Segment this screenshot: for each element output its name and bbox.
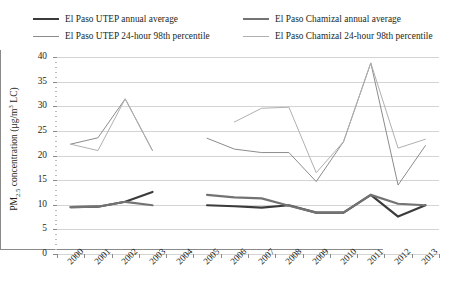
legend-label-chamizal-p98: El Paso Chamizal 24-hour 98th percentile bbox=[275, 31, 433, 41]
x-tick-mark bbox=[384, 254, 385, 258]
y-tick-label: 10 bbox=[19, 200, 47, 209]
legend-label-chamizal-annual: El Paso Chamizal annual average bbox=[275, 14, 401, 24]
chart-legend: El Paso UTEP annual average El Paso Cham… bbox=[0, 14, 456, 50]
y-axis-line bbox=[0, 50, 1, 249]
x-tick-mark bbox=[412, 254, 413, 258]
x-tick-mark bbox=[193, 254, 194, 258]
y-tick-label: 5 bbox=[19, 224, 47, 233]
y-tick-label: 15 bbox=[19, 175, 47, 184]
series-line bbox=[71, 202, 153, 207]
y-tick-label: 20 bbox=[19, 151, 47, 160]
legend-item-utep-annual: El Paso UTEP annual average bbox=[33, 14, 178, 24]
x-tick-mark bbox=[303, 254, 304, 258]
y-tick-label: 30 bbox=[19, 101, 47, 110]
x-tick-mark bbox=[221, 254, 222, 258]
legend-item-chamizal-annual: El Paso Chamizal annual average bbox=[243, 14, 401, 24]
y-tick-label: 35 bbox=[19, 77, 47, 86]
plot-area: PM2.5 concentration (μg/m3 LC) 051015202… bbox=[0, 50, 456, 303]
legend-label-utep-annual: El Paso UTEP annual average bbox=[65, 14, 178, 24]
legend-item-utep-p98: El Paso UTEP 24-hour 98th percentile bbox=[33, 31, 210, 41]
legend-swatch-chamizal-p98 bbox=[243, 36, 269, 37]
series-line bbox=[234, 63, 425, 173]
series-lines bbox=[57, 57, 439, 254]
legend-swatch-utep-p98 bbox=[33, 36, 59, 37]
legend-label-utep-p98: El Paso UTEP 24-hour 98th percentile bbox=[65, 31, 210, 41]
x-tick-mark bbox=[84, 254, 85, 258]
chart-root: El Paso UTEP annual average El Paso Cham… bbox=[0, 0, 456, 303]
series-line bbox=[207, 63, 425, 185]
legend-swatch-chamizal-annual bbox=[243, 18, 269, 20]
x-tick-mark bbox=[275, 254, 276, 258]
x-tick-mark bbox=[57, 254, 58, 258]
x-tick-mark bbox=[248, 254, 249, 258]
series-line bbox=[71, 99, 153, 151]
series-line bbox=[207, 195, 425, 213]
x-tick-mark bbox=[330, 254, 331, 258]
x-tick-mark bbox=[139, 254, 140, 258]
x-tick-mark bbox=[112, 254, 113, 258]
y-tick-label: 25 bbox=[19, 126, 47, 135]
y-tick-label: 0 bbox=[19, 249, 47, 258]
y-tick-label: 40 bbox=[19, 52, 47, 61]
legend-swatch-utep-annual bbox=[33, 18, 59, 20]
legend-item-chamizal-p98: El Paso Chamizal 24-hour 98th percentile bbox=[243, 31, 433, 41]
x-tick-mark bbox=[439, 254, 440, 258]
